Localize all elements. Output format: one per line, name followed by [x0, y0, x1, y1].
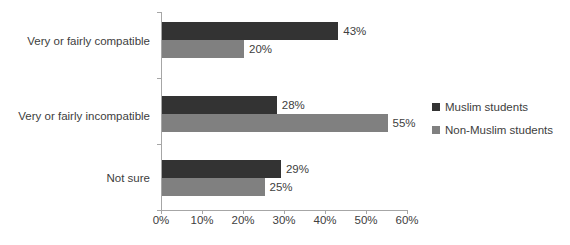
x-tick-label: 30%	[272, 214, 295, 226]
legend-label-muslim: Muslim students	[445, 101, 528, 113]
legend-swatch-icon	[432, 126, 440, 134]
bar-value-nonmuslim-incompatible: 55%	[393, 114, 416, 132]
bar-value-nonmuslim-compatible: 20%	[249, 40, 272, 58]
bar-value-nonmuslim-not-sure: 25%	[270, 178, 293, 196]
x-tick-label: 50%	[354, 214, 377, 226]
bar-muslim-not-sure	[162, 160, 281, 178]
legend-label-nonmuslim: Non-Muslim students	[445, 124, 553, 136]
x-tick-label: 20%	[231, 214, 254, 226]
chart-legend: Muslim students Non-Muslim students	[432, 101, 568, 147]
y-axis-tick	[157, 144, 161, 145]
category-label-2: Not sure	[107, 172, 150, 184]
bar-nonmuslim-compatible	[162, 40, 244, 58]
x-tick-label: 40%	[313, 214, 336, 226]
bar-chart: Very or fairly compatible Very or fairly…	[0, 0, 570, 245]
bar-muslim-compatible	[162, 22, 338, 40]
bar-value-muslim-incompatible: 28%	[282, 96, 305, 114]
x-tick-label: 10%	[190, 214, 213, 226]
y-axis-tick	[157, 78, 161, 79]
legend-swatch-icon	[432, 103, 440, 111]
x-tick-label: 0%	[153, 214, 170, 226]
y-axis-category-labels: Very or fairly compatible Very or fairly…	[0, 0, 156, 200]
legend-item-nonmuslim: Non-Muslim students	[432, 124, 568, 136]
bar-nonmuslim-incompatible	[162, 114, 388, 132]
legend-item-muslim: Muslim students	[432, 101, 568, 113]
bar-muslim-incompatible	[162, 96, 277, 114]
bar-nonmuslim-not-sure	[162, 178, 265, 196]
category-label-0: Very or fairly compatible	[27, 35, 150, 47]
y-axis-tick	[157, 12, 161, 13]
bar-value-muslim-compatible: 43%	[343, 22, 366, 40]
x-tick-label: 60%	[395, 214, 418, 226]
x-axis-tick-labels: 0% 10% 20% 30% 40% 50% 60%	[161, 214, 411, 230]
bar-value-muslim-not-sure: 29%	[286, 160, 309, 178]
category-label-1: Very or fairly incompatible	[18, 110, 150, 122]
plot-area: 43% 20% 28% 55% 29% 25%	[161, 12, 407, 210]
